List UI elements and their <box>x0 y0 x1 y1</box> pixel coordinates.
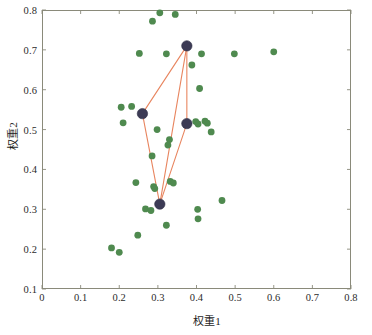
scatter-point-marker <box>204 120 211 127</box>
scatter-point-marker <box>148 207 155 214</box>
scatter-point-marker <box>170 180 177 187</box>
x-axis-title-text: 权重1 <box>193 312 221 328</box>
scatter-point-marker <box>198 50 205 57</box>
selected-node-marker <box>137 108 147 118</box>
scatter-point-marker <box>154 126 161 133</box>
x-tick-label: 0.2 <box>113 292 126 303</box>
scatter-points-group <box>108 9 277 255</box>
scatter-point-marker <box>194 206 201 213</box>
x-tick-label: 0.5 <box>228 292 241 303</box>
scatter-point-marker <box>196 85 203 92</box>
selected-node-marker <box>155 199 165 209</box>
x-tick-label: 0.6 <box>267 292 280 303</box>
scatter-point-marker <box>163 50 170 57</box>
scatter-point-marker <box>172 11 179 18</box>
scatter-point-marker <box>219 197 226 204</box>
x-tick-label: 0 <box>39 292 44 303</box>
scatter-plot-figure: 00.10.20.30.40.50.60.70.80.10.20.30.40.5… <box>0 0 372 335</box>
y-tick-label: 0.8 <box>11 5 37 16</box>
y-axis-title: 权重2 <box>4 86 20 186</box>
y-tick-label: 0.7 <box>11 44 37 55</box>
y-tick-label: 0.2 <box>11 244 37 255</box>
scatter-point-marker <box>120 119 127 126</box>
x-tick-label: 0.3 <box>151 292 164 303</box>
scatter-point-marker <box>134 232 141 239</box>
scatter-point-marker <box>165 142 172 149</box>
connection-edge <box>160 124 187 205</box>
scatter-point-marker <box>151 185 158 192</box>
scatter-point-marker <box>108 245 115 252</box>
scatter-point-marker <box>208 129 215 136</box>
scatter-point-marker <box>132 179 139 186</box>
scatter-point-marker <box>136 50 143 57</box>
tick-marks-group <box>42 10 351 289</box>
scatter-point-marker <box>231 50 238 57</box>
plot-canvas <box>42 10 351 289</box>
y-tick-label: 0.3 <box>11 204 37 215</box>
x-tick-label: 0.1 <box>74 292 87 303</box>
scatter-point-marker <box>128 103 135 110</box>
x-tick-label: 0.8 <box>344 292 357 303</box>
scatter-point-marker <box>188 62 195 69</box>
x-axis-title: 权重1 <box>0 312 372 328</box>
scatter-point-marker <box>270 48 277 55</box>
scatter-point-marker <box>149 18 156 25</box>
selected-node-marker <box>182 118 192 128</box>
selected-node-marker <box>182 41 192 51</box>
y-tick-label: 0.1 <box>11 284 37 295</box>
scatter-point-marker <box>195 215 202 222</box>
scatter-point-marker <box>118 104 125 111</box>
scatter-point-marker <box>163 222 170 229</box>
x-tick-label: 0.4 <box>190 292 203 303</box>
x-tick-label: 0.7 <box>306 292 319 303</box>
scatter-point-marker <box>156 9 163 16</box>
connection-edges-group <box>142 46 186 204</box>
y-axis-title-text: 权重2 <box>7 122 19 150</box>
scatter-point-marker <box>116 249 123 256</box>
scatter-point-marker <box>195 121 202 128</box>
scatter-point-marker <box>149 152 156 159</box>
